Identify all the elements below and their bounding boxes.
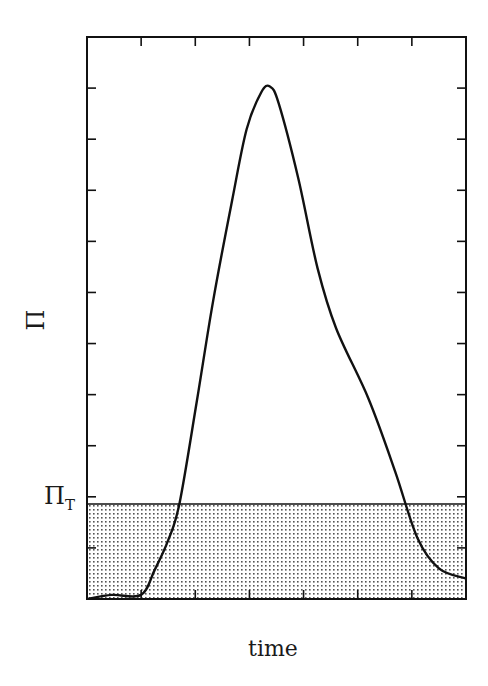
chart-plot: [0, 0, 488, 686]
threshold-label-subscript: T: [65, 496, 75, 514]
threshold-label-main: Π: [44, 482, 65, 510]
threshold-label: ΠT: [44, 484, 75, 517]
x-axis-label: time: [0, 636, 488, 661]
y-axis-label: Π: [24, 308, 48, 332]
